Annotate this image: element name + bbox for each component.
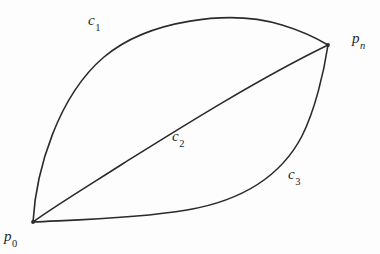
endpoint-label-pn-subscript: n [360,40,365,51]
endpoint-label-p0-subscript: 0 [12,238,17,249]
curve-label-c2-base: c [172,128,179,144]
curve-label-c2: c2 [172,129,184,148]
curve-diagram-figure: c1 c2 c3 pn p0 [0,0,380,254]
endpoint-label-pn: pn [352,31,365,50]
curve-label-c1-base: c [88,12,95,28]
curve-label-c3: c3 [288,167,300,186]
vertex-point-pn [326,43,330,47]
curve-label-c3-base: c [288,166,295,182]
curve-label-c1-subscript: 1 [95,22,100,33]
curve-diagram-canvas [0,0,380,254]
curve-label-c3-subscript: 3 [295,176,300,187]
vertex-point-p0 [31,220,35,224]
endpoint-label-p0-base: p [4,228,12,244]
curve-c1-upper-arc [33,18,328,222]
endpoint-label-pn-base: p [352,30,360,46]
curve-label-c2-subscript: 2 [179,138,184,149]
endpoint-label-p0: p0 [4,229,17,248]
curve-label-c1: c1 [88,13,100,32]
